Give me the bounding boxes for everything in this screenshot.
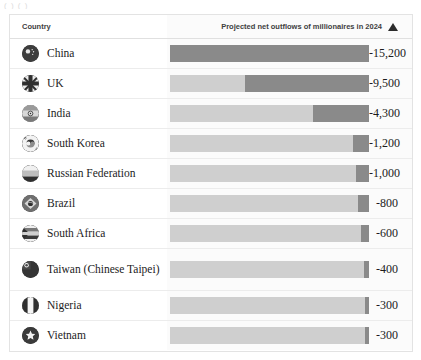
country-cell: Brazil — [10, 189, 167, 219]
bar-track — [170, 195, 369, 212]
column-header-metric-label: Projected net outflows of millionaires i… — [221, 22, 382, 31]
country-name: Vietnam — [47, 329, 86, 342]
country-cell: Vietnam — [10, 321, 167, 351]
bar-fill — [361, 225, 369, 242]
country-cell-inner: South Africa — [22, 225, 167, 242]
metric-cell: -300 — [167, 291, 412, 321]
table-row[interactable]: India-4,300 — [10, 99, 412, 129]
bar-track — [170, 105, 369, 122]
value-label: -1,000 — [369, 166, 406, 181]
flag-south-korea-icon — [22, 135, 39, 152]
flag-uk-icon — [22, 75, 39, 92]
metric-cell: -400 — [167, 249, 412, 291]
value-label: -15,200 — [369, 46, 412, 61]
value-label: -800 — [369, 196, 404, 211]
bar-and-value: -4,300 — [167, 99, 412, 128]
metric-cell: -800 — [167, 189, 412, 219]
bar-and-value: -800 — [167, 189, 412, 218]
millionaire-outflows-table-panel: Country Projected net outflows of millio… — [9, 14, 413, 352]
table-header: Country Projected net outflows of millio… — [10, 15, 412, 39]
country-name: South Korea — [47, 137, 105, 150]
bar-track — [170, 45, 369, 62]
bar-and-value: -600 — [167, 219, 412, 248]
column-header-country[interactable]: Country — [10, 15, 167, 39]
bar-track — [170, 327, 369, 344]
country-cell-inner: Vietnam — [22, 327, 167, 344]
chart-panel-root: ( ) ( ) Country Projected net outflows o… — [0, 0, 421, 360]
country-cell: South Africa — [10, 219, 167, 249]
bar-track — [170, 225, 369, 242]
table-row[interactable]: Vietnam-300 — [10, 321, 412, 351]
bar-and-value: -400 — [167, 249, 412, 290]
bar-track — [170, 75, 369, 92]
bar-and-value: -300 — [167, 321, 412, 350]
country-name: Nigeria — [47, 299, 81, 312]
table-row[interactable]: Taiwan (Chinese Taipei)-400 — [10, 249, 412, 291]
country-name: South Africa — [47, 227, 105, 240]
table-row[interactable]: UK-9,500 — [10, 69, 412, 99]
country-cell-inner: Russian Federation — [22, 165, 167, 182]
flag-china-icon — [22, 45, 39, 62]
bar-fill — [313, 105, 369, 122]
bar-and-value: -9,500 — [167, 69, 412, 98]
value-label: -4,300 — [369, 106, 406, 121]
flag-nigeria-icon — [22, 297, 39, 314]
table-row[interactable]: Nigeria-300 — [10, 291, 412, 321]
sort-ascending-triangle-icon[interactable] — [388, 23, 398, 31]
country-cell-inner: India — [22, 105, 167, 122]
flag-russia-icon — [22, 165, 39, 182]
bar-fill — [170, 45, 369, 62]
flag-south-africa-icon — [22, 225, 39, 242]
millionaire-outflows-table: Country Projected net outflows of millio… — [10, 15, 412, 350]
bar-and-value: -1,000 — [167, 159, 412, 188]
country-cell-inner: UK — [22, 75, 167, 92]
flag-brazil-icon — [22, 195, 39, 212]
bar-track — [170, 261, 369, 278]
table-row[interactable]: Brazil-800 — [10, 189, 412, 219]
metric-cell: -300 — [167, 321, 412, 351]
bar-track — [170, 165, 369, 182]
country-cell: Taiwan (Chinese Taipei) — [10, 249, 167, 291]
bar-fill — [365, 297, 369, 314]
value-label: -1,200 — [369, 136, 406, 151]
table-row[interactable]: South Korea-1,200 — [10, 129, 412, 159]
country-cell: India — [10, 99, 167, 129]
metric-cell: -4,300 — [167, 99, 412, 129]
table-row[interactable]: China-15,200 — [10, 39, 412, 69]
bar-track — [170, 297, 369, 314]
country-cell-inner: Taiwan (Chinese Taipei) — [22, 261, 167, 278]
metric-cell: -1,000 — [167, 159, 412, 189]
table-header-row: Country Projected net outflows of millio… — [10, 15, 412, 39]
country-cell-inner: South Korea — [22, 135, 167, 152]
metric-cell: -1,200 — [167, 129, 412, 159]
value-label: -9,500 — [369, 76, 406, 91]
bar-fill — [358, 195, 369, 212]
column-header-metric[interactable]: Projected net outflows of millionaires i… — [167, 15, 412, 39]
flag-vietnam-icon — [22, 327, 39, 344]
country-name: Brazil — [47, 197, 75, 210]
country-name: UK — [47, 77, 64, 90]
bar-and-value: -15,200 — [167, 39, 412, 68]
country-cell-inner: China — [22, 45, 167, 62]
country-cell: Nigeria — [10, 291, 167, 321]
bar-and-value: -300 — [167, 291, 412, 320]
table-body: China-15,200UK-9,500India-4,300South Kor… — [10, 39, 412, 351]
flag-taiwan-icon — [22, 261, 39, 278]
flag-india-icon — [22, 105, 39, 122]
metric-cell: -9,500 — [167, 69, 412, 99]
country-name: India — [47, 107, 71, 120]
bar-fill — [245, 75, 369, 92]
value-label: -300 — [369, 298, 404, 313]
country-cell: Russian Federation — [10, 159, 167, 189]
bar-fill — [365, 327, 369, 344]
value-label: -600 — [369, 226, 404, 241]
column-header-metric-inner: Projected net outflows of millionaires i… — [167, 22, 408, 31]
country-cell-inner: Brazil — [22, 195, 167, 212]
table-row[interactable]: South Africa-600 — [10, 219, 412, 249]
country-cell: UK — [10, 69, 167, 99]
cropped-text-artifact: ( ) ( ) — [4, 1, 154, 9]
country-name: Taiwan (Chinese Taipei) — [47, 263, 160, 276]
bar-fill — [353, 135, 369, 152]
table-row[interactable]: Russian Federation-1,000 — [10, 159, 412, 189]
bar-fill — [364, 261, 369, 278]
